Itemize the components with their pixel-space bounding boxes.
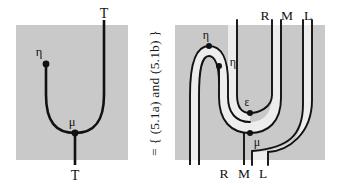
left-mu-node-dot	[72, 130, 79, 137]
relation-text: = { (5.1a) and (5.1b) }	[147, 29, 163, 155]
relation-text-container: = { (5.1a) and (5.1b) }	[130, 0, 180, 185]
right-eta-inner-node-dot	[216, 63, 222, 69]
right-top-wire-label-L: L	[304, 8, 312, 23]
figure-root: η μ T T	[0, 0, 337, 185]
right-eta-outer-label: η	[203, 28, 209, 42]
right-eta-outer-node-dot	[206, 43, 212, 49]
left-bottom-wire-label-T: T	[71, 168, 80, 183]
left-eta-label: η	[36, 45, 43, 59]
left-mu-label: μ	[69, 115, 76, 129]
right-top-wire-label-R: R	[260, 8, 269, 23]
right-wire-bottom-R-stem	[190, 160, 199, 165]
right-bottom-wire-label-R: R	[219, 166, 228, 181]
right-top-wire-label-M: M	[281, 8, 293, 23]
right-mu-label: μ	[254, 135, 260, 149]
right-mu-node-dot	[247, 130, 253, 136]
left-diagram-group: η μ T T	[16, 6, 128, 183]
left-eta-node-dot	[43, 61, 50, 68]
right-eta-inner-label: η	[230, 55, 236, 69]
right-diagram-group: η η ε μ R M L R M L	[175, 8, 325, 181]
right-bottom-wire-label-M: M	[238, 166, 250, 181]
right-epsilon-node-dot	[247, 110, 253, 116]
left-panel-background	[16, 25, 128, 160]
left-top-wire-label-T: T	[100, 6, 109, 21]
right-epsilon-label: ε	[245, 96, 250, 108]
right-bottom-wire-label-L: L	[259, 166, 267, 181]
